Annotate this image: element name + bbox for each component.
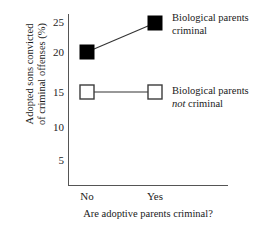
legend-1-line2-rest: criminal — [185, 98, 223, 109]
y-axis-title-line2: of criminal offenses (%) — [36, 23, 47, 125]
x-axis-spine — [68, 185, 228, 186]
data-point-not-criminal-yes — [148, 85, 162, 99]
series-line-biological-criminal — [87, 23, 155, 52]
data-point-criminal-no — [80, 45, 94, 59]
legend-1-line1: Biological parents — [172, 85, 249, 98]
legend-0-line1: Biological parents — [172, 12, 249, 25]
y-tick-label-5: 5 — [44, 155, 64, 166]
legend-biological-parents-not-criminal: Biological parents not criminal — [172, 85, 249, 110]
y-axis-spine — [68, 14, 69, 186]
legend-1-not-emphasis: not — [172, 98, 185, 109]
y-tick-5: 5 — [44, 155, 64, 166]
x-axis-title: Are adoptive parents criminal? — [50, 208, 246, 220]
legend-biological-parents-criminal: Biological parents criminal — [172, 12, 249, 37]
data-point-not-criminal-no — [80, 85, 94, 99]
x-tick-label-no: No — [57, 190, 117, 203]
legend-0-line2: criminal — [172, 25, 249, 38]
chart-figure: 25 20 15 10 5 Adopted sons convicted of … — [0, 0, 278, 235]
y-axis-title: Adopted sons convicted of criminal offen… — [24, 0, 48, 154]
y-axis-title-line1: Adopted sons convicted — [24, 24, 35, 125]
legend-1-line2: not criminal — [172, 98, 249, 111]
data-point-criminal-yes — [148, 16, 162, 30]
x-tick-label-yes: Yes — [125, 190, 185, 203]
